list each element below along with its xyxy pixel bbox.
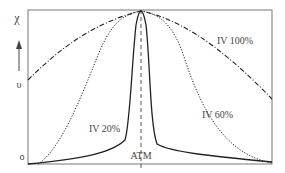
- up-arrow-icon: [16, 40, 22, 71]
- y-axis-bottom-label: o: [20, 151, 25, 162]
- label-iv20: IV 20%: [89, 123, 120, 134]
- label-atm: ATM: [130, 150, 151, 161]
- y-axis-arrow-label: υ: [17, 79, 22, 90]
- series-iv60: [38, 11, 272, 164]
- series-iv20: [28, 11, 272, 164]
- vega-by-strike-chart: χ υ o IV 100% IV 60% IV 20% ATM: [0, 0, 285, 173]
- y-axis-top-label: χ: [13, 11, 20, 25]
- label-iv100: IV 100%: [217, 35, 253, 46]
- label-iv60: IV 60%: [202, 109, 233, 120]
